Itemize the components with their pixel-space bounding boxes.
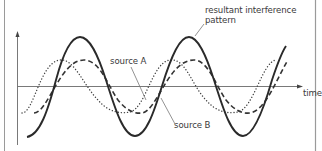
x-axis-label: time [303,88,322,98]
source-b-label: source B [174,120,210,130]
y-axis-arrow-icon [16,31,20,37]
x-axis [18,85,304,89]
source-a-leader [131,67,146,100]
resultant-label: resultant interference pattern [205,5,305,25]
y-axis [16,31,20,145]
resultant-leader [195,24,204,36]
source-a-label: source A [110,56,146,66]
source-b-leader [161,98,175,124]
resultant-wave [27,37,286,137]
